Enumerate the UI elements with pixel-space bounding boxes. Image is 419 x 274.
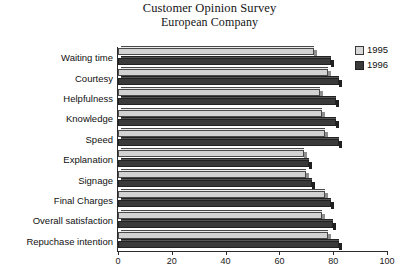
bar-front-face <box>118 89 320 96</box>
bar-side-face <box>339 141 342 148</box>
bar-front-face <box>118 150 304 157</box>
bar-1996 <box>118 119 336 126</box>
bar-1995 <box>118 171 306 178</box>
category-label: Signage <box>78 174 113 185</box>
chart-row: Knowledge <box>118 108 387 128</box>
bar-front-face <box>118 221 333 228</box>
bar-front-face <box>118 48 314 55</box>
category-label: Waiting time <box>61 52 113 63</box>
x-axis-tick <box>387 251 388 255</box>
bar-1996 <box>118 139 339 146</box>
legend-item-1996: 1996 <box>355 59 388 71</box>
bar-1995 <box>118 130 325 137</box>
chart-row: Speed <box>118 129 387 149</box>
x-axis-tick <box>118 251 119 255</box>
bar-1996 <box>118 58 331 65</box>
legend-swatch-1996 <box>355 61 364 70</box>
bar-front-face <box>118 232 328 239</box>
bar-1995 <box>118 232 328 239</box>
bar-front-face <box>118 180 312 187</box>
x-axis-tick-label: 40 <box>221 256 231 267</box>
bar-front-face <box>118 110 322 117</box>
category-label: Courtesy <box>75 72 113 83</box>
x-axis-tick-label: 20 <box>167 256 177 267</box>
chart-row: Waiting time <box>118 47 387 67</box>
bar-1996 <box>118 200 331 207</box>
bar-1996 <box>118 160 309 167</box>
legend-swatch-1995 <box>355 46 364 55</box>
category-label: Speed <box>86 133 113 144</box>
x-axis-tick-label: 60 <box>274 256 284 267</box>
x-axis-tick <box>172 251 173 255</box>
bar-side-face <box>336 121 339 128</box>
bar-front-face <box>118 98 336 105</box>
bar-1996 <box>118 221 333 228</box>
bar-1995 <box>118 191 325 198</box>
bar-side-face <box>339 243 342 250</box>
chart-row: Helpfulness <box>118 88 387 108</box>
chart-row: Explanation <box>118 149 387 169</box>
chart-title-block: Customer Opinion Survey European Company <box>0 1 419 29</box>
bar-1995 <box>118 69 328 76</box>
bar-1995 <box>118 48 314 55</box>
bar-1995 <box>118 150 304 157</box>
chart-row: Final Charges <box>118 190 387 210</box>
chart-title: Customer Opinion Survey <box>0 1 419 15</box>
x-axis-tick <box>279 251 280 255</box>
chart-row: Repuchase intention <box>118 231 387 251</box>
bar-front-face <box>118 160 309 167</box>
category-label: Overall satisfaction <box>33 215 113 226</box>
x-axis-tick-label: 100 <box>379 256 394 267</box>
chart-legend: 1995 1996 <box>355 44 388 74</box>
bar-1996 <box>118 180 312 187</box>
chart-row: Overall satisfaction <box>118 210 387 230</box>
bar-side-face <box>312 182 315 189</box>
plot-area: 020406080100Waiting timeCourtesyHelpfuln… <box>118 47 387 251</box>
category-label: Helpfulness <box>63 92 113 103</box>
bar-front-face <box>118 200 331 207</box>
x-axis-line <box>117 251 387 252</box>
category-label: Repuchase intention <box>26 235 113 246</box>
bar-side-face <box>331 202 334 209</box>
bar-front-face <box>118 171 306 178</box>
bar-1996 <box>118 78 339 85</box>
bar-side-face <box>339 80 342 87</box>
bar-1996 <box>118 241 339 248</box>
x-axis-tick <box>226 251 227 255</box>
bar-front-face <box>118 119 336 126</box>
bar-1996 <box>118 98 336 105</box>
category-label: Explanation <box>63 154 113 165</box>
legend-label-1996: 1996 <box>367 59 388 71</box>
bar-front-face <box>118 130 325 137</box>
bar-front-face <box>118 58 331 65</box>
category-label: Knowledge <box>66 113 113 124</box>
chart-row: Courtesy <box>118 67 387 87</box>
legend-item-1995: 1995 <box>355 44 388 56</box>
bar-front-face <box>118 191 325 198</box>
bar-1995 <box>118 212 322 219</box>
bar-front-face <box>118 241 339 248</box>
bar-front-face <box>118 139 339 146</box>
bar-1995 <box>118 110 322 117</box>
bar-side-face <box>333 223 336 230</box>
x-axis-tick <box>333 251 334 255</box>
bar-1995 <box>118 89 320 96</box>
chart-row: Signage <box>118 169 387 189</box>
chart-subtitle: European Company <box>0 15 419 29</box>
customer-opinion-survey-chart: Customer Opinion Survey European Company… <box>0 0 419 274</box>
bar-side-face <box>331 60 334 67</box>
bar-side-face <box>309 162 312 169</box>
category-label: Final Charges <box>54 194 113 205</box>
legend-label-1995: 1995 <box>367 44 388 56</box>
bar-side-face <box>336 100 339 107</box>
bar-front-face <box>118 69 328 76</box>
bar-front-face <box>118 212 322 219</box>
x-axis-tick-label: 0 <box>115 256 120 267</box>
bar-front-face <box>118 78 339 85</box>
x-axis-tick-label: 80 <box>328 256 338 267</box>
